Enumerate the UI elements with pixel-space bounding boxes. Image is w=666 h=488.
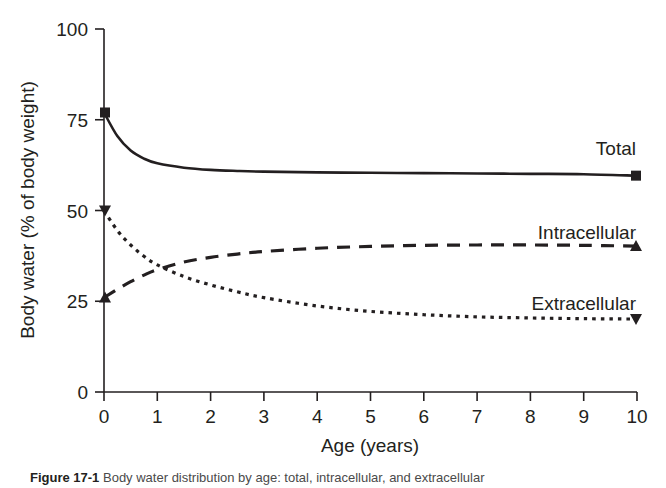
x-tick-label: 9 — [578, 406, 589, 427]
axes — [104, 29, 637, 392]
figure-caption-number: Figure 17-1 — [30, 470, 99, 485]
x-tick-label: 8 — [525, 406, 536, 427]
figure-caption: Figure 17-1 Body water distribution by a… — [30, 470, 650, 486]
x-tick-label: 2 — [205, 406, 216, 427]
y-axis-tick-labels: 100 75 50 25 0 — [56, 19, 88, 403]
y-tick-label: 0 — [77, 382, 88, 403]
series-label-total: Total — [596, 138, 636, 159]
body-water-line-chart: 100 75 50 25 0 012345678910 Age (years) … — [0, 0, 666, 488]
figure-body-water-by-age: 100 75 50 25 0 012345678910 Age (years) … — [0, 0, 666, 488]
x-axis-tick-labels: 012345678910 — [99, 406, 648, 427]
series-label-intracellular: Intracellular — [538, 222, 637, 243]
x-axis-ticks — [104, 392, 637, 401]
y-tick-label: 50 — [67, 201, 88, 222]
x-tick-label: 5 — [365, 406, 376, 427]
x-tick-label: 0 — [99, 406, 110, 427]
y-axis-title: Body water (% of body weight) — [17, 81, 38, 339]
series-total — [100, 107, 641, 180]
series-end-marker — [631, 171, 641, 181]
y-tick-label: 25 — [67, 291, 88, 312]
series-end-marker — [630, 314, 642, 325]
x-axis-title: Age (years) — [321, 435, 419, 456]
x-tick-label: 1 — [152, 406, 163, 427]
series-line — [104, 245, 637, 298]
series-start-marker — [100, 107, 110, 117]
figure-caption-text: Body water distribution by age: total, i… — [103, 470, 485, 485]
y-tick-label: 100 — [56, 19, 88, 40]
series-label-extracellular: Extracellular — [531, 293, 636, 314]
x-tick-label: 7 — [472, 406, 483, 427]
y-tick-label: 75 — [67, 110, 88, 131]
series-line — [104, 112, 637, 175]
x-tick-label: 6 — [419, 406, 430, 427]
x-tick-label: 10 — [626, 406, 647, 427]
x-tick-label: 3 — [259, 406, 270, 427]
x-tick-label: 4 — [312, 406, 323, 427]
